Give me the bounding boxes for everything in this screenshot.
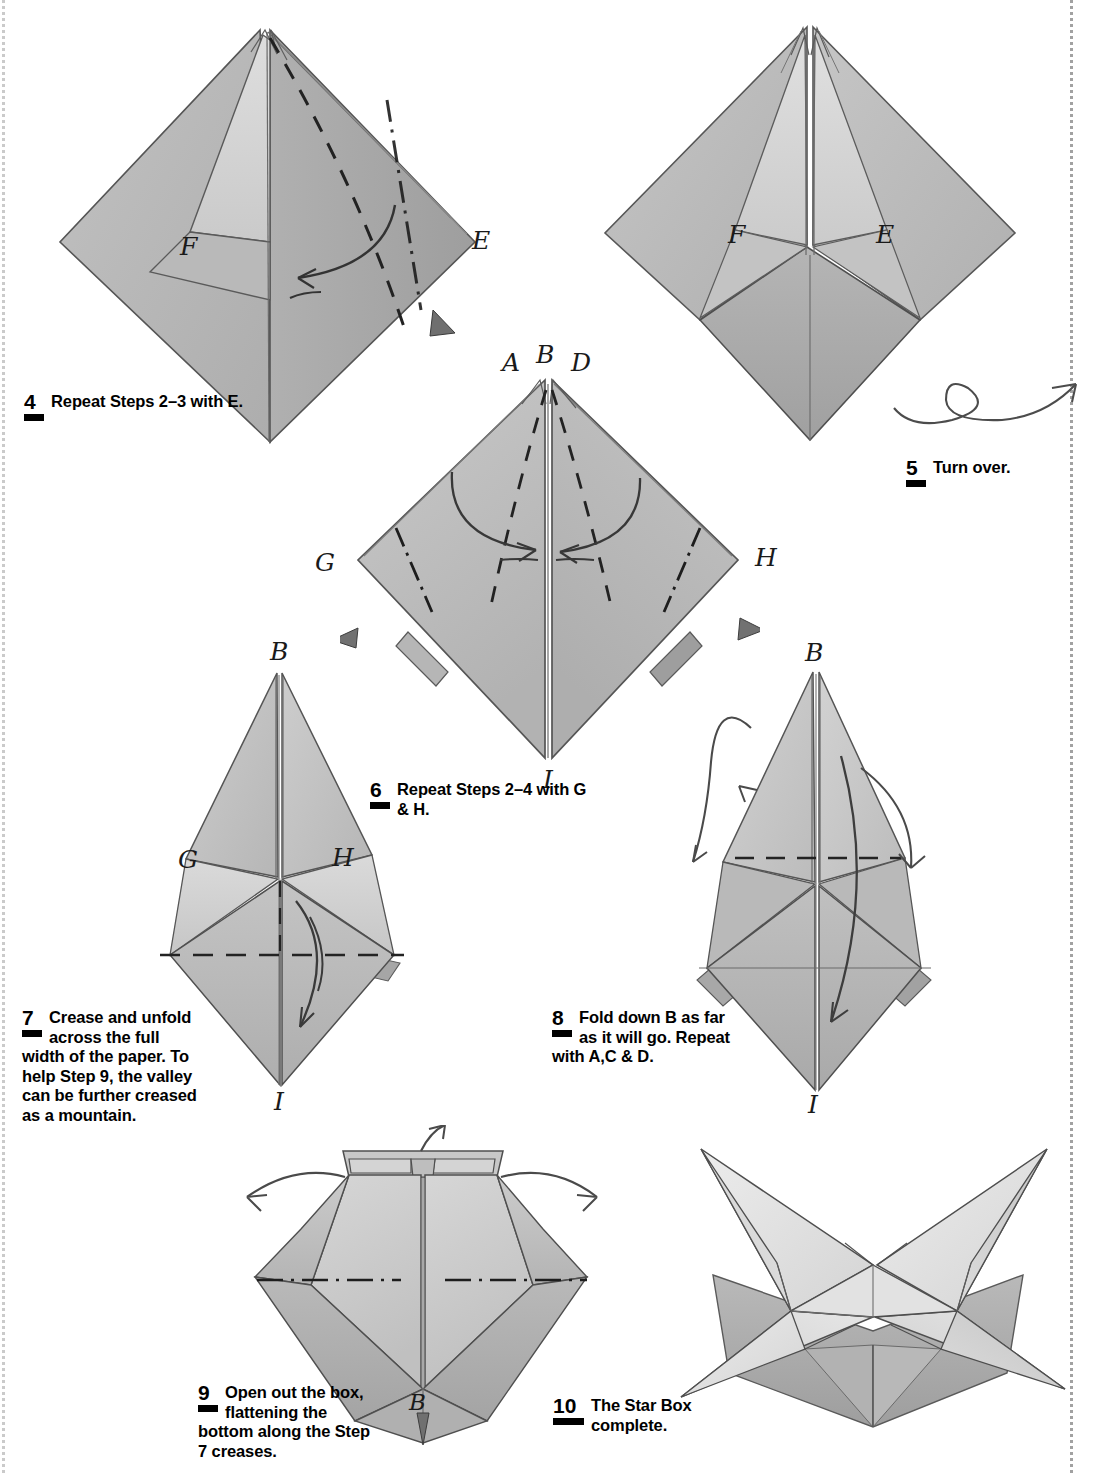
label-G: G: [178, 845, 198, 874]
step-number-bar-icon: [552, 1030, 572, 1037]
step-7-number: 7: [22, 1008, 42, 1037]
step-9-text: Open out the box, flattening the bottom …: [198, 1383, 373, 1461]
label-G: G: [315, 548, 335, 577]
label-H: H: [755, 543, 777, 572]
step-number-bar-icon: [553, 1418, 584, 1425]
page-gutter-left-icon: [2, 0, 5, 1475]
step-10-caption: 10 The Star Box complete.: [553, 1396, 738, 1435]
step-number-bar-icon: [198, 1405, 218, 1412]
label-E: E: [472, 226, 490, 255]
figure-turnover-arrow: [890, 372, 1085, 432]
step-7-caption: 7 Crease and unfold across the full widt…: [22, 1008, 202, 1125]
step-number-bar-icon: [24, 414, 44, 421]
step-8-caption: 8 Fold down B as far as it will go. Repe…: [552, 1008, 732, 1067]
step-8-text: Fold down B as far as it will go. Repeat…: [552, 1008, 732, 1067]
label-B: B: [805, 638, 823, 667]
step-5-text: Turn over.: [906, 458, 1076, 478]
label-B: B: [409, 1389, 426, 1415]
step-5-caption: 5 Turn over.: [906, 458, 1076, 487]
label-F: F: [728, 220, 745, 249]
label-D: D: [571, 348, 591, 377]
step-5-number: 5: [906, 458, 926, 487]
step-9-number: 9: [198, 1383, 218, 1412]
step-4-number: 4: [24, 392, 44, 421]
label-B: B: [536, 340, 554, 369]
label-F: F: [180, 232, 197, 261]
label-A: A: [502, 348, 520, 377]
step-8-number: 8: [552, 1008, 572, 1037]
step-4-text: Repeat Steps 2–3 with E.: [24, 392, 244, 412]
step-10-number: 10: [553, 1396, 584, 1425]
step-number-bar-icon: [906, 480, 926, 487]
step-4-caption: 4 Repeat Steps 2–3 with E.: [24, 392, 244, 421]
step-7-text: Crease and unfold across the full width …: [22, 1008, 202, 1125]
label-H: H: [332, 843, 354, 872]
step-9-caption: 9 Open out the box, flattening the botto…: [198, 1383, 373, 1461]
step-number-bar-icon: [22, 1030, 42, 1037]
label-I: I: [808, 1090, 818, 1119]
label-B: B: [270, 637, 288, 666]
label-I: I: [274, 1087, 284, 1116]
label-E: E: [876, 220, 894, 249]
instruction-page: F E: [0, 0, 1093, 1475]
